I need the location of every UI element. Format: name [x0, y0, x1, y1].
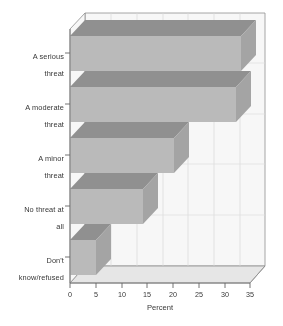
bar-front-face — [70, 87, 236, 122]
x-tick-label-15: 15 — [137, 290, 157, 299]
bar-a-moderate-threat — [70, 71, 251, 122]
bar-no-threat-at-all — [70, 173, 158, 224]
bar-a-serious-threat — [70, 20, 256, 71]
category-ticks — [65, 53, 70, 257]
bar-top-face — [70, 71, 251, 87]
category-label-a-moderate-threat: A moderate threat — [2, 95, 64, 129]
category-label-line1: No threat at — [24, 205, 64, 214]
category-label-line1: A minor — [38, 154, 64, 163]
bar-front-face — [70, 240, 96, 275]
category-label-a-serious-threat: A serious threat — [2, 44, 64, 78]
x-tick-label-0: 0 — [60, 290, 80, 299]
bar-top-face — [70, 122, 189, 138]
x-axis-title: Percent — [100, 303, 220, 312]
category-label-line2: threat — [45, 171, 65, 180]
bar-front-face — [70, 138, 174, 173]
x-tick-label-35: 35 — [240, 290, 260, 299]
x-tick-label-5: 5 — [86, 290, 106, 299]
category-label-line2: threat — [45, 120, 65, 129]
category-label-line1: A moderate — [25, 103, 64, 112]
x-tick-label-30: 30 — [215, 290, 235, 299]
bar-front-face — [70, 189, 143, 224]
bar-chart: A serious threat A moderate threat A min… — [0, 0, 283, 326]
x-tick-label-10: 10 — [112, 290, 132, 299]
category-label-line2: know/refused — [19, 273, 64, 282]
bar-top-face — [70, 20, 256, 36]
bar-a-minor-threat — [70, 122, 189, 173]
x-tick-label-25: 25 — [189, 290, 209, 299]
category-label-a-minor-threat: A minor threat — [2, 146, 64, 180]
category-label-no-threat-at-all: No threat at all — [2, 197, 64, 231]
category-label-line1: Don't — [46, 256, 64, 265]
x-axis-ticks — [70, 283, 250, 288]
bar-front-face — [70, 36, 241, 71]
category-label-dont-know-refused: Don't know/refused — [2, 248, 64, 282]
category-label-line1: A serious — [33, 52, 64, 61]
category-label-line2: all — [56, 222, 64, 231]
bar-top-face — [70, 173, 158, 189]
x-tick-label-20: 20 — [163, 290, 183, 299]
category-label-line2: threat — [45, 69, 65, 78]
